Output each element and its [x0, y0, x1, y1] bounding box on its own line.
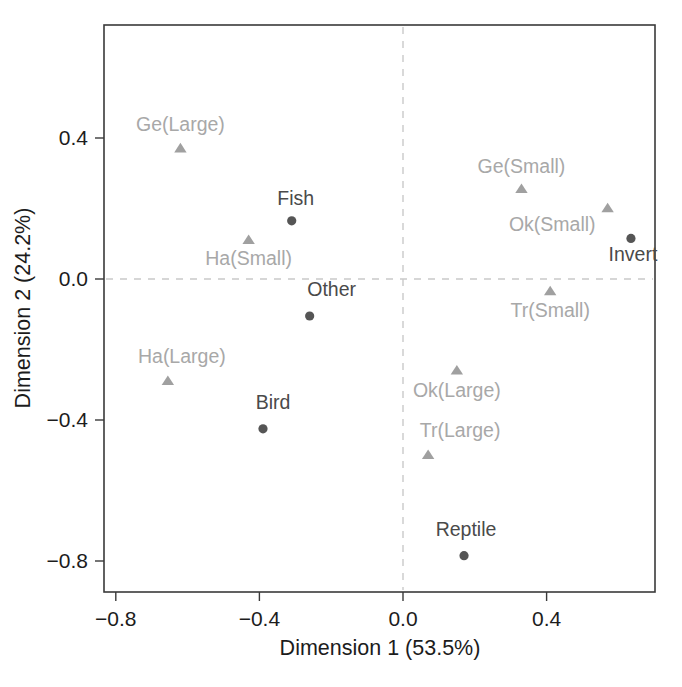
x-tick-label: 0.4: [532, 607, 562, 630]
x-axis-title: Dimension 1 (53.5%): [280, 636, 481, 660]
scatter-point-label: Ha(Large): [138, 345, 226, 367]
y-tick-label: 0.0: [59, 267, 88, 290]
plot-canvas: −0.8−0.40.00.4 0.40.0−0.4−0.8 FishOtherB…: [0, 0, 682, 687]
y-axis-title: Dimension 2 (24.2%): [11, 208, 35, 409]
scatter-point-circle[interactable]: [459, 551, 468, 560]
y-tick-label: −0.8: [47, 549, 88, 572]
y-tick-label: 0.4: [59, 126, 89, 149]
y-tick-label: −0.4: [47, 408, 89, 431]
scatter-point-label: Ha(Small): [205, 247, 292, 269]
x-tick-label: −0.4: [239, 607, 281, 630]
x-tick-label: −0.8: [95, 607, 136, 630]
scatter-point-circle[interactable]: [258, 424, 267, 433]
scatter-point-label: Ge(Large): [136, 113, 225, 135]
scatter-point-label: Tr(Large): [420, 419, 501, 441]
scatter-point-label: Ge(Small): [478, 155, 566, 177]
scatter-point-circle[interactable]: [305, 311, 314, 320]
scatter-point-label: Fish: [277, 187, 314, 209]
scatter-point-label: Reptile: [436, 518, 497, 540]
scatter-plot-figure: −0.8−0.40.00.4 0.40.0−0.4−0.8 FishOtherB…: [0, 0, 682, 687]
scatter-point-label: Ok(Large): [413, 379, 501, 401]
scatter-point-label: Ok(Small): [509, 213, 596, 235]
scatter-point-circle[interactable]: [626, 234, 635, 243]
scatter-point-label: Other: [307, 278, 356, 300]
scatter-point-label: Tr(Small): [510, 299, 589, 321]
scatter-point-label: Bird: [256, 391, 291, 413]
plot-background: [0, 0, 682, 687]
x-tick-label: 0.0: [388, 607, 417, 630]
scatter-point-circle[interactable]: [287, 216, 296, 225]
scatter-point-label: Invert: [609, 243, 658, 265]
